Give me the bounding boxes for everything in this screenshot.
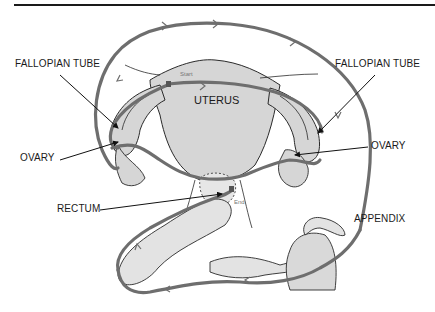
label-ovary-right: OVARY: [371, 140, 406, 151]
label-fallopian-tube-right: FALLOPIAN TUBE: [335, 58, 420, 69]
label-rectum: RECTUM: [57, 203, 100, 214]
label-appendix: APPENDIX: [354, 213, 405, 224]
label-start: Start: [180, 71, 193, 77]
start-marker: [166, 81, 171, 87]
label-end: End: [234, 199, 245, 205]
label-fallopian-tube-left: FALLOPIAN TUBE: [15, 58, 100, 69]
label-uterus: UTERUS: [194, 94, 239, 106]
label-ovary-left: OVARY: [20, 152, 55, 163]
anatomy-diagram: [0, 0, 435, 312]
end-marker: [229, 186, 234, 192]
rectum: [118, 199, 315, 285]
